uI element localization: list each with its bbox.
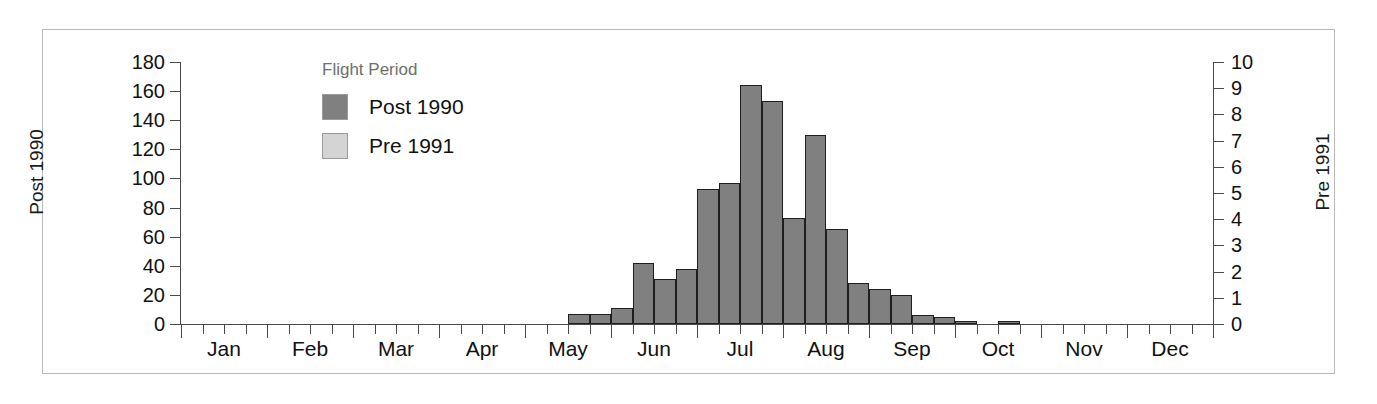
legend: Flight Period Post 1990 Pre 1991 [322,60,464,172]
x-tick [719,325,720,334]
bar-post-1990 [869,289,891,324]
left-tick-label: 100 [132,168,165,188]
x-tick [1020,325,1021,334]
x-tick [547,325,548,334]
x-axis-label-jan: Jan [179,337,269,360]
left-tick [170,237,181,238]
right-tick [1213,219,1224,220]
x-tick [396,325,397,334]
right-tick-label: 4 [1231,209,1242,229]
x-axis-label-jul: Jul [695,337,785,360]
x-axis-label-sep: Sep [867,337,957,360]
x-tick [1149,325,1150,334]
left-tick-label: 20 [143,285,165,305]
x-tick [568,325,569,334]
x-tick [375,325,376,334]
left-tick-label: 160 [132,81,165,101]
x-tick [461,325,462,334]
right-tick [1213,324,1224,325]
x-tick [1192,325,1193,334]
legend-item-post-1990[interactable]: Post 1990 [322,94,464,120]
legend-title: Flight Period [322,60,464,80]
x-axis-label-apr: Apr [437,337,527,360]
left-tick-label: 120 [132,139,165,159]
x-tick [418,325,419,334]
bar-post-1990 [805,135,827,324]
x-tick [332,325,333,334]
right-tick-label: 9 [1231,78,1242,98]
bar-post-1990 [740,85,762,324]
bar-post-1990 [955,321,977,324]
right-tick [1213,62,1224,63]
x-tick [504,325,505,334]
x-tick [590,325,591,334]
right-tick-label: 7 [1231,131,1242,151]
x-tick [1170,325,1171,334]
x-tick [289,325,290,334]
right-tick [1213,141,1224,142]
right-tick [1213,298,1224,299]
legend-swatch-pre-1991 [322,133,348,159]
bar-post-1990 [611,308,633,324]
x-tick [1106,325,1107,334]
left-tick [170,178,181,179]
x-axis-label-dec: Dec [1125,337,1215,360]
left-tick-label: 140 [132,110,165,130]
bar-post-1990 [633,263,655,324]
left-tick-label: 180 [132,52,165,72]
left-tick [170,149,181,150]
bar-post-1990 [568,314,590,324]
left-tick [170,62,181,63]
bar-post-1990 [676,269,698,324]
bar-post-1990 [848,283,870,324]
legend-swatch-post-1990 [322,94,348,120]
right-tick [1213,193,1224,194]
x-tick [912,325,913,334]
legend-label-pre-1991: Pre 1991 [369,134,454,158]
left-tick-label: 60 [143,227,165,247]
chart-page: Post 1990 Pre 1991 020406080100120140160… [0,0,1377,404]
x-tick [977,325,978,334]
right-tick-label: 5 [1231,183,1242,203]
bar-post-1990 [998,321,1020,324]
bar-post-1990 [697,189,719,324]
left-tick [170,120,181,121]
legend-item-pre-1991[interactable]: Pre 1991 [322,133,464,159]
right-tick [1213,88,1224,89]
x-tick [826,325,827,334]
right-tick-label: 2 [1231,262,1242,282]
x-tick [998,325,999,334]
x-tick [1084,325,1085,334]
left-axis-title: Post 1990 [26,102,48,242]
bar-post-1990 [934,317,956,324]
right-axis-title: Pre 1991 [1312,102,1334,242]
right-tick-label: 1 [1231,288,1242,308]
x-axis-label-may: May [523,337,613,360]
bar-post-1990 [654,279,676,324]
x-tick [203,325,204,334]
bar-post-1990 [826,229,848,324]
x-axis-label-oct: Oct [953,337,1043,360]
right-tick [1213,167,1224,168]
right-tick-label: 3 [1231,235,1242,255]
x-tick [310,325,311,334]
x-axis-label-feb: Feb [265,337,355,360]
x-tick [934,325,935,334]
x-tick [1063,325,1064,334]
left-tick [170,208,181,209]
x-tick [246,325,247,334]
bar-post-1990 [912,315,934,324]
x-tick [848,325,849,334]
x-tick [676,325,677,334]
right-tick-label: 8 [1231,104,1242,124]
bar-post-1990 [590,314,612,324]
x-tick [891,325,892,334]
left-tick-label: 40 [143,256,165,276]
right-tick [1213,114,1224,115]
x-axis-label-aug: Aug [781,337,871,360]
left-tick-label: 80 [143,198,165,218]
right-tick-label: 6 [1231,157,1242,177]
x-axis-label-jun: Jun [609,337,699,360]
x-tick [224,325,225,334]
right-tick [1213,245,1224,246]
